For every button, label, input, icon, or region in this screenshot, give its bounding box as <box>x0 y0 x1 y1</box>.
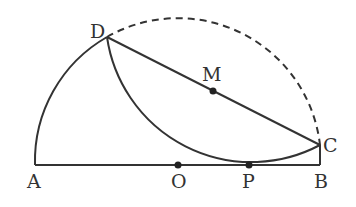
point-O <box>175 162 182 169</box>
label-B: B <box>314 170 328 192</box>
label-O: O <box>171 170 187 192</box>
label-M: M <box>202 63 221 85</box>
point-P <box>246 162 253 169</box>
arc-AD <box>35 37 107 165</box>
point-M <box>210 88 217 95</box>
label-P: P <box>242 170 255 192</box>
geometry-diagram: D M C A O P B <box>0 0 356 207</box>
arc-DC-folded <box>107 37 320 162</box>
label-C: C <box>323 134 338 156</box>
label-A: A <box>26 170 41 192</box>
label-D: D <box>90 20 105 42</box>
